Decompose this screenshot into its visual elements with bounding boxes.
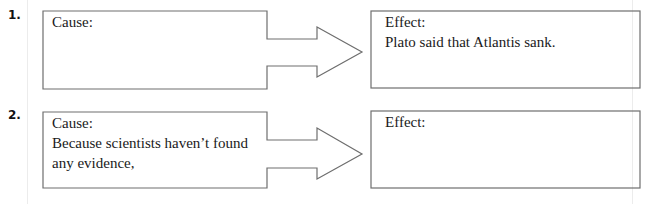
cause-label: Cause: (52, 113, 93, 133)
cause-text-line-1[interactable]: Because scientists haven’t found (52, 133, 248, 153)
cause-effect-diagram-2 (0, 0, 662, 204)
cause-text-line-2[interactable]: any evidence, (52, 153, 134, 173)
effect-label: Effect: (385, 112, 426, 132)
